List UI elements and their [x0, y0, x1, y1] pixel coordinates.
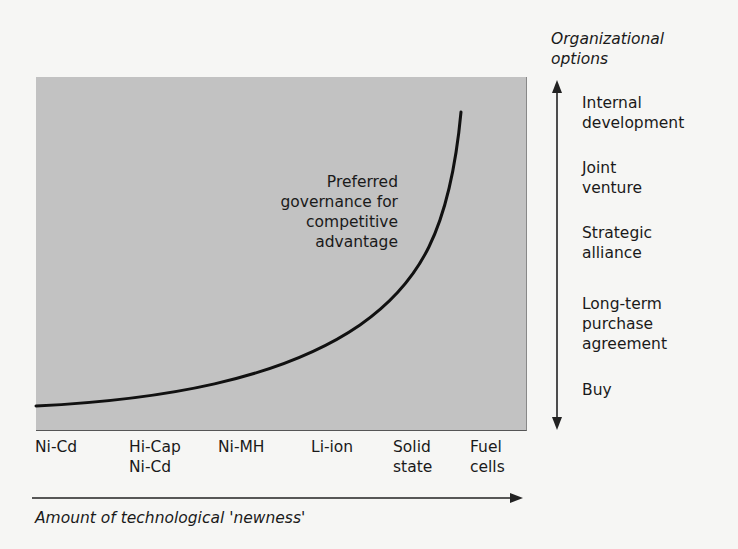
y-option-line: development — [582, 113, 684, 133]
y-option-line: venture — [582, 178, 642, 198]
governance-curve — [36, 112, 461, 406]
arrow-right-icon — [510, 493, 523, 503]
x-tick-ni-mh: Ni-MH — [218, 437, 265, 457]
x-tick-line: Solid — [393, 437, 432, 457]
x-tick-line: Fuel — [470, 437, 505, 457]
y-option-line: Strategic — [582, 223, 652, 243]
y-option-buy: Buy — [582, 380, 612, 400]
y-option-line: Long-term — [582, 294, 667, 314]
y-option-line: agreement — [582, 334, 667, 354]
x-tick-line: state — [393, 457, 432, 477]
y-option-line: Joint — [582, 158, 642, 178]
arrow-up-icon — [552, 80, 562, 93]
y-option-line: purchase — [582, 314, 667, 334]
curve-label-line: Preferred — [250, 172, 398, 192]
x-tick-line: Ni-MH — [218, 437, 265, 457]
x-tick-line: Ni-Cd — [35, 437, 77, 457]
y-option-internal-development: Internal development — [582, 93, 684, 133]
x-tick-ni-cd: Ni-Cd — [35, 437, 77, 457]
y-axis-title-line: options — [551, 49, 664, 69]
x-tick-hi-cap-ni-cd: Hi-Cap Ni-Cd — [129, 437, 181, 477]
y-axis-title: Organizational options — [551, 29, 664, 69]
x-tick-line: Ni-Cd — [129, 457, 181, 477]
y-option-line: alliance — [582, 243, 652, 263]
y-option-long-term-purchase-agreement: Long-term purchase agreement — [582, 294, 667, 354]
curve-label: Preferred governance for competitive adv… — [250, 172, 398, 252]
y-option-line: Buy — [582, 380, 612, 400]
x-tick-li-ion: Li-ion — [311, 437, 353, 457]
diagram-lines — [0, 0, 738, 549]
y-option-strategic-alliance: Strategic alliance — [582, 223, 652, 263]
x-tick-solid-state: Solid state — [393, 437, 432, 477]
x-tick-fuel-cells: Fuel cells — [470, 437, 505, 477]
y-option-line: Internal — [582, 93, 684, 113]
y-option-joint-venture: Joint venture — [582, 158, 642, 198]
x-tick-line: cells — [470, 457, 505, 477]
curve-label-line: advantage — [250, 232, 398, 252]
arrow-down-icon — [552, 417, 562, 430]
x-axis-title: Amount of technological 'newness' — [35, 508, 305, 528]
y-axis-title-line: Organizational — [551, 29, 664, 49]
x-tick-line: Hi-Cap — [129, 437, 181, 457]
curve-label-line: governance for — [250, 192, 398, 212]
curve-label-line: competitive — [250, 212, 398, 232]
x-tick-line: Li-ion — [311, 437, 353, 457]
